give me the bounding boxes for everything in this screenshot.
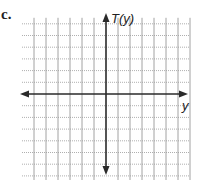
- arrow-down-icon: [103, 166, 110, 175]
- arrow-right-icon: [179, 91, 188, 98]
- arrow-left-icon: [20, 91, 29, 98]
- y-axis-label: T(y): [111, 11, 134, 26]
- arrow-up-icon: [103, 13, 110, 22]
- coordinate-grid: T(y) y: [0, 0, 204, 180]
